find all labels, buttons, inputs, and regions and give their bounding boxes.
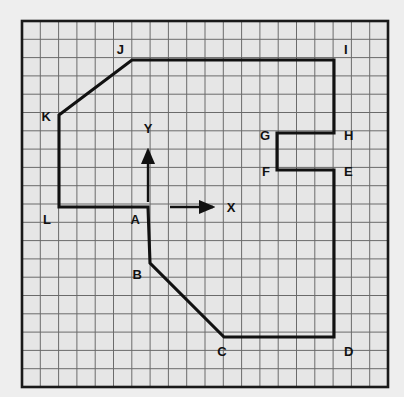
vertex-label-g: G	[260, 128, 270, 143]
vertex-label-j: J	[117, 42, 124, 57]
vertex-label-b: B	[133, 267, 142, 282]
vertex-label-c: C	[217, 344, 227, 359]
vertex-label-e: E	[344, 164, 353, 179]
vertex-label-f: F	[262, 164, 270, 179]
vertex-label-a: A	[131, 212, 141, 227]
x-axis-label: X	[227, 200, 236, 215]
y-axis-label: Y	[144, 121, 153, 136]
figure-container: Y X ABCDEFGHIJKL	[0, 0, 404, 397]
vertex-label-k: K	[42, 109, 52, 124]
vertex-label-l: L	[43, 212, 51, 227]
vertex-label-i: I	[344, 42, 348, 57]
coordinate-grid-figure: Y X ABCDEFGHIJKL	[0, 0, 404, 397]
vertex-label-h: H	[344, 128, 353, 143]
vertex-label-d: D	[344, 344, 353, 359]
